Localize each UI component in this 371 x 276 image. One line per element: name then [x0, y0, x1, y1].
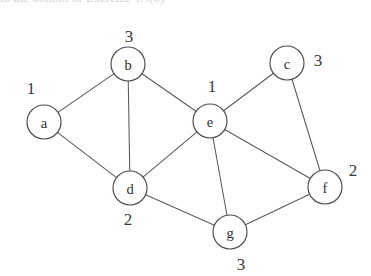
node-weight-b: 3 — [125, 27, 134, 46]
node-layer: a1b3c3d2e1f2g3 — [27, 27, 358, 274]
node-label-g: g — [226, 225, 233, 241]
node-weight-d: 2 — [124, 210, 133, 229]
graph-node-f[interactable]: f — [308, 170, 342, 204]
graph-edge-d-g — [146, 195, 215, 225]
graph-edge-d-e — [143, 132, 197, 177]
graph-edge-a-d — [57, 132, 116, 177]
node-weight-g: 3 — [237, 255, 246, 274]
graph-edge-a-b — [58, 74, 114, 113]
graph-node-c[interactable]: c — [270, 46, 304, 80]
graph-node-d[interactable]: d — [113, 171, 147, 205]
node-label-f: f — [323, 180, 328, 196]
node-weight-c: 3 — [314, 51, 323, 70]
node-label-b: b — [124, 57, 131, 73]
node-weight-f: 2 — [349, 161, 358, 180]
node-label-d: d — [126, 181, 134, 197]
edge-layer — [57, 73, 320, 225]
graph-edge-e-g — [213, 138, 227, 216]
graph-edge-g-f — [245, 194, 309, 224]
graph-node-a[interactable]: a — [27, 105, 61, 139]
graph-edge-e-f — [225, 129, 311, 178]
graph-edge-c-f — [292, 79, 320, 171]
graph-edge-e-c — [224, 73, 274, 111]
graph-canvas: a1b3c3d2e1f2g3 — [0, 0, 371, 276]
graph-edge-b-d — [128, 81, 129, 171]
graph-node-b[interactable]: b — [111, 47, 145, 81]
node-weight-e: 1 — [208, 77, 217, 96]
node-label-c: c — [284, 56, 290, 72]
graph-figure: to the bottom of Exercise 4.4(b) a1b3c3d… — [0, 0, 371, 276]
node-label-a: a — [41, 115, 48, 131]
node-label-e: e — [207, 114, 213, 130]
graph-node-e[interactable]: e — [193, 104, 227, 138]
node-weight-a: 1 — [27, 79, 36, 98]
graph-node-g[interactable]: g — [213, 215, 247, 249]
graph-edge-b-e — [142, 74, 196, 112]
